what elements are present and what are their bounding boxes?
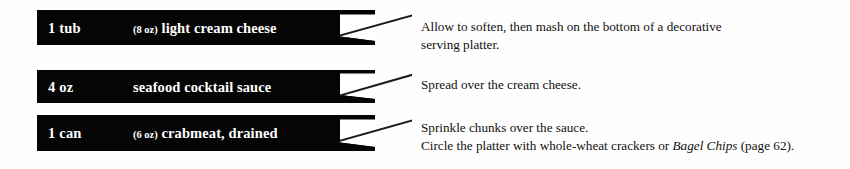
ingredient-name: (8 oz) light cream cheese (133, 19, 277, 36)
instruction-line: Allow to soften, then mash on the bottom… (421, 18, 841, 36)
instruction-line-with-reference: Circle the platter with whole-wheat crac… (421, 137, 841, 155)
ingredient-size: (6 oz) (133, 129, 158, 140)
instruction-page-reference: (page 62). (737, 138, 794, 153)
ingredient-size: (8 oz) (133, 23, 158, 34)
recipe-page: 1 tub (8 oz) light cream cheese Allow to… (0, 0, 850, 169)
ingredient-label: light cream cheese (162, 19, 277, 35)
ingredient-quantity: 4 oz (48, 78, 73, 95)
recipe-reference-title: Bagel Chips (673, 138, 738, 153)
instruction-text-before-reference: Circle the platter with whole-wheat crac… (421, 138, 673, 153)
ingredient-name: (6 oz) crabmeat, drained (133, 125, 278, 142)
ingredient-label: crabmeat, drained (162, 125, 278, 141)
ingredient-bar: 1 can (6 oz) crabmeat, drained (37, 115, 375, 151)
instruction-line: Spread over the cream cheese. (421, 76, 841, 94)
ingredient-bar: 4 oz seafood cocktail sauce (37, 70, 375, 103)
instruction-text: Spread over the cream cheese. (421, 76, 841, 94)
instruction-text: Allow to soften, then mash on the bottom… (421, 18, 841, 53)
instruction-text: Sprinkle chunks over the sauce. Circle t… (421, 119, 841, 154)
ingredient-bar: 1 tub (8 oz) light cream cheese (37, 10, 375, 45)
ingredient-name: seafood cocktail sauce (133, 78, 271, 95)
ingredient-quantity: 1 tub (48, 19, 81, 36)
instruction-line: serving platter. (421, 36, 841, 54)
ingredient-quantity: 1 can (48, 125, 82, 142)
instruction-line: Sprinkle chunks over the sauce. (421, 119, 841, 137)
